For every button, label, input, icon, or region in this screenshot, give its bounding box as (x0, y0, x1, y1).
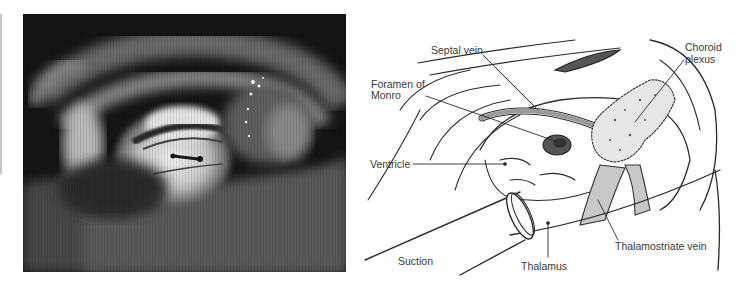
label-thalamostriate-vein: Thalamostriate vein (615, 240, 707, 252)
endoscopic-photo (23, 14, 346, 272)
label-foramen-of-monro-line2: Monro (371, 89, 401, 101)
label-choroid-plexus-line2: plexus (685, 53, 715, 65)
label-septal-vein: Septal vein (431, 44, 483, 56)
label-choroid-plexus-line1: Choroid (685, 41, 722, 53)
label-thalamus: Thalamus (521, 260, 567, 272)
previous-panel-edge (0, 14, 2, 174)
label-ventricle: Ventricle (370, 158, 410, 170)
label-suction: Suction (398, 255, 433, 267)
